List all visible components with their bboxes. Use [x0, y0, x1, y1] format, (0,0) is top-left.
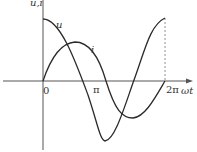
- x-axis-label: ωt: [181, 85, 194, 96]
- waveform-diagram: u,i u i 0 π 2π ωt: [0, 0, 197, 152]
- u-curve: [43, 18, 165, 141]
- origin-label: 0: [43, 85, 49, 96]
- y-axis-label: u,i: [30, 0, 43, 8]
- x-axis-arrow-icon: [186, 79, 193, 84]
- tick-label-2pi: 2π: [166, 84, 179, 95]
- u-curve-label: u: [56, 19, 62, 30]
- i-curve-label: i: [91, 44, 94, 55]
- i-curve: [43, 42, 165, 118]
- tick-label-pi: π: [93, 84, 100, 95]
